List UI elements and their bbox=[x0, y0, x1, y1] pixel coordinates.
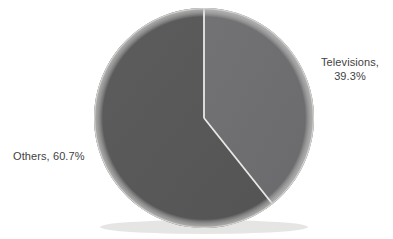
pie-label-televisions: Televisions, 39.3% bbox=[314, 56, 386, 83]
pie-label-televisions-value: 39.3% bbox=[314, 70, 386, 84]
pie-chart: Televisions, 39.3% Others, 60.7% bbox=[0, 0, 393, 239]
pie-label-others: Others, 60.7% bbox=[13, 150, 85, 164]
pie-label-others-text: Others, 60.7% bbox=[13, 150, 85, 162]
pie-label-televisions-name: Televisions, bbox=[321, 56, 379, 68]
pie-chart-canvas bbox=[0, 0, 393, 239]
